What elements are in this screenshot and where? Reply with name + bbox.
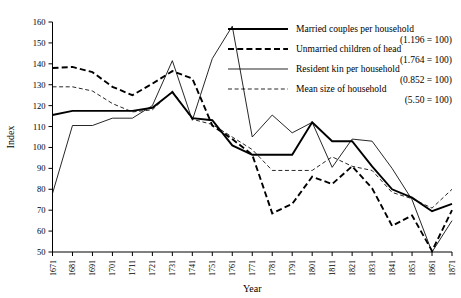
y-tick-label: 50 bbox=[37, 247, 46, 257]
series-line-2 bbox=[53, 67, 453, 251]
x-axis-title: Year bbox=[243, 283, 262, 294]
x-tick-label: 1741 bbox=[188, 260, 197, 276]
y-tick-label: 90 bbox=[37, 163, 46, 173]
x-tick-label: 1761 bbox=[228, 260, 237, 276]
x-tick-label: 1671 bbox=[49, 260, 58, 276]
y-axis-title: Index bbox=[5, 126, 16, 149]
x-tick-label: 1861 bbox=[428, 260, 437, 276]
legend-label-3: Resident kin per household bbox=[296, 64, 400, 74]
x-tick-label: 1681 bbox=[68, 260, 77, 276]
legend-base-4: (5.50 = 100) bbox=[405, 95, 452, 106]
x-tick-label: 1731 bbox=[168, 260, 177, 276]
y-tick-label: 140 bbox=[33, 59, 46, 69]
x-tick-label: 1781 bbox=[268, 260, 277, 276]
legend-base-2: (1.764 = 100) bbox=[400, 55, 452, 66]
line-chart: 1601501401301201101009080706050Index1671… bbox=[0, 0, 461, 298]
y-tick-label: 80 bbox=[37, 184, 46, 194]
series-line-1 bbox=[53, 92, 453, 211]
y-tick-label: 70 bbox=[37, 205, 46, 215]
x-tick-label: 1841 bbox=[388, 260, 397, 276]
y-tick-label: 160 bbox=[33, 17, 46, 27]
y-tick-label: 60 bbox=[37, 226, 46, 236]
x-tick-label: 1771 bbox=[248, 260, 257, 276]
x-tick-label: 1711 bbox=[128, 260, 137, 276]
chart-container: 1601501401301201101009080706050Index1671… bbox=[0, 0, 461, 298]
legend-label-2: Unmarried children of head bbox=[296, 44, 401, 54]
x-tick-label: 1701 bbox=[108, 260, 117, 276]
x-tick-label: 1851 bbox=[408, 260, 417, 276]
x-tick-label: 1821 bbox=[348, 260, 357, 276]
y-tick-label: 130 bbox=[33, 80, 46, 90]
x-tick-label: 1811 bbox=[328, 260, 337, 276]
y-tick-label: 150 bbox=[33, 38, 46, 48]
x-tick-label: 1801 bbox=[308, 260, 317, 276]
y-tick-label: 110 bbox=[33, 122, 45, 132]
legend-base-1: (1.196 = 100) bbox=[400, 35, 452, 46]
y-tick-label: 100 bbox=[33, 142, 46, 152]
y-tick-label: 120 bbox=[33, 101, 46, 111]
x-tick-label: 1831 bbox=[368, 260, 377, 276]
x-tick-label: 1871 bbox=[448, 260, 457, 276]
series-line-3 bbox=[53, 26, 453, 252]
legend-label-1: Married couples per household bbox=[296, 24, 414, 34]
x-tick-label: 1751 bbox=[208, 260, 217, 276]
legend-label-4: Mean size of household bbox=[296, 84, 387, 94]
x-tick-label: 1721 bbox=[148, 260, 157, 276]
x-tick-label: 1691 bbox=[88, 260, 97, 276]
x-tick-label: 1791 bbox=[288, 260, 297, 276]
legend-base-3: (0.852 = 100) bbox=[400, 75, 452, 86]
